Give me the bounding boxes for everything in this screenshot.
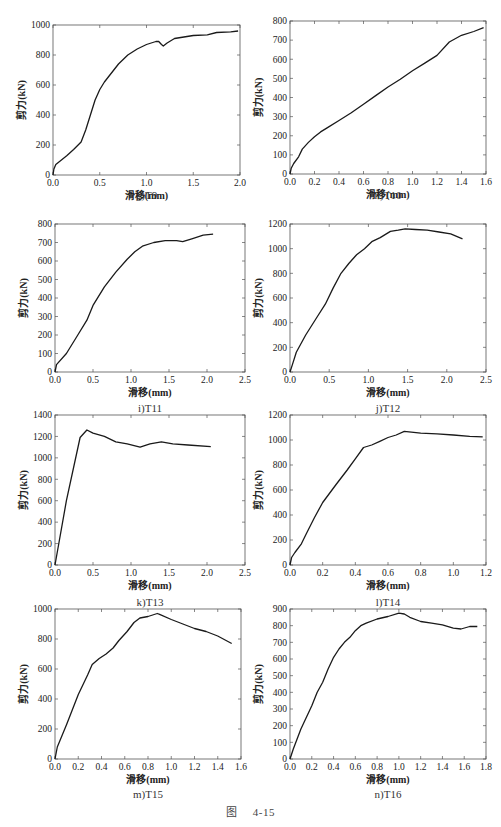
y-tick-label: 1000 [268, 435, 287, 445]
x-tick-label: 1.2 [480, 568, 492, 578]
chart-panel-n: 01002003004005006007008009000.00.20.40.6… [250, 605, 500, 795]
y-tick-label: 1000 [268, 244, 287, 254]
y-tick-label: 200 [273, 721, 288, 731]
x-tick-label: 0.0 [49, 375, 61, 385]
x-tick-label: 0.0 [47, 178, 59, 188]
y-tick-label: 600 [38, 664, 53, 674]
load-slip-curve [55, 614, 232, 760]
x-tick-label: 0.8 [415, 568, 427, 578]
y-tick-label: 400 [273, 688, 288, 698]
y-axis-title: 剪力(kN) [17, 278, 30, 317]
x-tick-label: 1.5 [402, 375, 414, 385]
x-tick-label: 1.4 [437, 762, 449, 772]
x-tick-label: 2.0 [441, 375, 453, 385]
y-tick-label: 300 [38, 312, 53, 322]
x-tick-label: 0.4 [96, 762, 108, 772]
y-tick-label: 100 [273, 150, 288, 160]
chart-panel-l: 0200400600800100012000.00.20.40.60.81.01… [250, 411, 500, 601]
chart-panel-i: 01002003004005006007008000.00.51.01.52.0… [15, 220, 259, 408]
y-tick-label: 300 [273, 704, 288, 714]
y-tick-label: 1400 [33, 410, 52, 420]
y-tick-label: 800 [273, 460, 288, 470]
x-tick-label: 1.0 [393, 762, 405, 772]
chart-panel-j: 0200400600800100012000.00.51.01.52.02.5滑… [250, 220, 500, 408]
y-tick-label: 800 [38, 475, 53, 485]
load-slip-curve [290, 431, 483, 565]
x-tick-label: 1.6 [480, 177, 492, 187]
x-tick-label: 0.5 [87, 568, 99, 578]
y-tick-label: 800 [273, 269, 288, 279]
y-tick-label: 400 [273, 510, 288, 520]
x-tick-label: 1.0 [165, 762, 177, 772]
subfigure-caption-h: h)T10 [290, 189, 486, 201]
load-slip-curve [290, 613, 477, 759]
x-tick-label: 1.2 [415, 762, 427, 772]
load-slip-curve [55, 234, 213, 372]
plot-frame [53, 25, 240, 175]
x-tick-label: 1.8 [480, 762, 492, 772]
figure-caption: 图 4-15 [0, 803, 501, 819]
x-tick-label: 0.6 [349, 762, 361, 772]
load-slip-curve [55, 430, 211, 565]
x-tick-label: 0.6 [382, 568, 394, 578]
cropped-header-text [0, 0, 501, 8]
line-chart-h: 01002003004005006007008000.00.20.40.60.8… [250, 17, 500, 210]
plot-frame [55, 224, 245, 372]
x-tick-label: 1.6 [458, 762, 470, 772]
figure-number: 4-15 [253, 806, 275, 818]
y-tick-label: 600 [36, 80, 51, 90]
chart-panel-m: 020040060080010000.00.20.40.60.81.01.21.… [15, 605, 255, 795]
y-tick-label: 700 [273, 35, 288, 45]
y-tick-label: 200 [273, 343, 288, 353]
y-tick-label: 200 [38, 539, 53, 549]
line-chart-i: 01002003004005006007008000.00.51.01.52.0… [15, 220, 259, 408]
plot-frame [290, 21, 486, 174]
y-tick-label: 600 [273, 55, 288, 65]
x-tick-label: 0.0 [49, 762, 61, 772]
line-chart-g: 020040060080010000.00.51.01.52.0滑移(mm)剪力… [13, 21, 254, 211]
y-tick-label: 400 [38, 293, 53, 303]
x-tick-label: 2.0 [201, 568, 213, 578]
y-tick-label: 100 [38, 349, 53, 359]
subfigure-caption-m: m)T15 [55, 788, 241, 800]
line-chart-j: 0200400600800100012000.00.51.01.52.02.5滑… [250, 220, 500, 408]
load-slip-curve [290, 229, 463, 372]
y-tick-label: 1200 [33, 432, 52, 442]
plot-frame [55, 415, 245, 565]
y-tick-label: 300 [273, 112, 288, 122]
load-slip-curve [53, 31, 238, 175]
y-tick-label: 700 [273, 638, 288, 648]
x-tick-label: 1.6 [235, 762, 247, 772]
x-tick-label: 0.5 [87, 375, 99, 385]
x-tick-label: 0.2 [72, 762, 84, 772]
x-tick-label: 1.5 [163, 568, 175, 578]
x-tick-label: 1.2 [431, 177, 443, 187]
x-tick-label: 0.2 [317, 568, 329, 578]
x-tick-label: 1.0 [447, 568, 459, 578]
x-tick-label: 1.0 [125, 568, 137, 578]
chart-panel-g: 020040060080010000.00.51.01.52.0滑移(mm)剪力… [13, 21, 254, 211]
x-tick-label: 1.4 [212, 762, 224, 772]
line-chart-n: 01002003004005006007008009000.00.20.40.6… [250, 605, 500, 795]
y-tick-label: 1200 [268, 219, 287, 229]
x-tick-label: 0.0 [284, 568, 296, 578]
chart-panel-k: 02004006008001000120014000.00.51.01.52.0… [15, 411, 259, 601]
x-tick-label: 0.0 [284, 375, 296, 385]
x-tick-label: 0.8 [142, 762, 154, 772]
figure-label: 图 [226, 806, 238, 818]
x-tick-label: 0.5 [323, 375, 335, 385]
y-tick-label: 400 [38, 694, 53, 704]
y-tick-label: 200 [36, 140, 51, 150]
y-axis-title: 剪力(kN) [17, 470, 30, 509]
y-tick-label: 500 [38, 275, 53, 285]
y-tick-label: 800 [36, 50, 51, 60]
y-tick-label: 200 [38, 330, 53, 340]
x-tick-label: 0.0 [284, 177, 296, 187]
y-tick-label: 600 [38, 496, 53, 506]
x-tick-label: 1.5 [163, 375, 175, 385]
subfigure-caption-n: n)T16 [290, 788, 486, 800]
y-tick-label: 900 [273, 604, 288, 614]
x-axis-title: 滑移(mm) [366, 579, 409, 592]
subfigure-caption-g: g)T9 [53, 189, 240, 201]
y-tick-label: 400 [273, 93, 288, 103]
